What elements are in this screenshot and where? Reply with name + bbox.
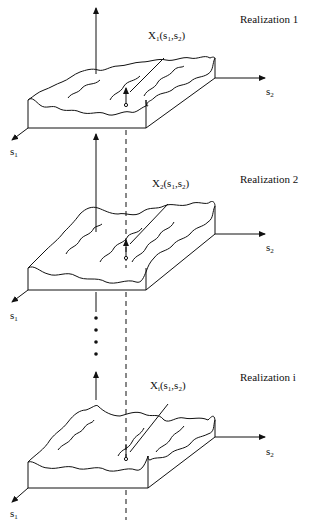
- realization-1-title: Realization 1: [240, 14, 298, 25]
- s2-label-1: s2: [266, 86, 274, 99]
- realization-2-title: Realization 2: [240, 174, 298, 185]
- value-label-2: X2(s1,s2): [152, 178, 189, 191]
- s1-axis-1: [12, 128, 28, 140]
- realization-i-title: Realization i: [240, 372, 296, 383]
- s1-axis-i: [12, 488, 28, 502]
- value-label-1: X1(s1,s2): [148, 30, 185, 43]
- s1-label-i: s1: [10, 508, 18, 521]
- leader-line-2: [130, 204, 168, 244]
- value-label-i: Xi(s1,s2): [150, 380, 186, 393]
- surface-realization-1: [12, 8, 265, 140]
- s2-label-i: s2: [266, 446, 274, 459]
- s1-axis-2: [12, 290, 28, 302]
- s2-label-2: s2: [266, 242, 274, 255]
- ellipsis-dots: [94, 316, 98, 356]
- realizations-diagram: [0, 0, 309, 524]
- surface-realization-i: [12, 404, 265, 502]
- s1-label-2: s1: [10, 310, 18, 323]
- surface-realization-2: [12, 201, 265, 302]
- leader-line-i: [130, 404, 168, 452]
- s1-label-1: s1: [10, 146, 18, 159]
